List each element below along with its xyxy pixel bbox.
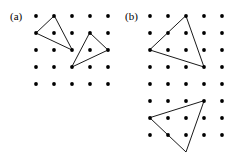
lattice-point bbox=[88, 82, 92, 86]
lattice-point bbox=[106, 31, 110, 35]
lattice-point bbox=[202, 82, 206, 86]
lattice-point bbox=[166, 116, 170, 120]
lattice-point bbox=[148, 133, 152, 137]
lattice-point bbox=[34, 65, 38, 69]
lattice-point bbox=[202, 14, 206, 18]
lattice-point bbox=[52, 65, 56, 69]
lattice-point bbox=[52, 48, 56, 52]
lattice-point bbox=[52, 82, 56, 86]
lattice-point bbox=[220, 48, 224, 52]
lattice-point bbox=[106, 14, 110, 18]
lattice-point bbox=[220, 116, 224, 120]
lattice-point bbox=[184, 116, 188, 120]
triangles-b bbox=[150, 16, 204, 152]
lattice-dots-b bbox=[148, 14, 224, 137]
triangles-a bbox=[36, 16, 108, 67]
lattice-point bbox=[202, 116, 206, 120]
lattice-point bbox=[184, 133, 188, 137]
lattice-point bbox=[166, 14, 170, 18]
triangle-b2 bbox=[150, 101, 204, 152]
figure-root: (a) (b) bbox=[0, 0, 239, 162]
lattice-point bbox=[34, 14, 38, 18]
lattice-point bbox=[166, 82, 170, 86]
lattice-point bbox=[184, 99, 188, 103]
lattice-point bbox=[106, 82, 110, 86]
lattice-point bbox=[148, 65, 152, 69]
lattice-point bbox=[52, 31, 56, 35]
lattice-point bbox=[106, 65, 110, 69]
lattice-point bbox=[70, 14, 74, 18]
lattice-point bbox=[70, 31, 74, 35]
lattice-point bbox=[184, 82, 188, 86]
panel-a: (a) bbox=[0, 0, 119, 162]
lattice-point bbox=[184, 31, 188, 35]
lattice-point bbox=[220, 65, 224, 69]
lattice-point bbox=[166, 48, 170, 52]
lattice-point bbox=[184, 65, 188, 69]
lattice-diagram-a bbox=[0, 0, 119, 162]
lattice-point bbox=[148, 31, 152, 35]
lattice-point bbox=[220, 14, 224, 18]
lattice-point bbox=[220, 31, 224, 35]
lattice-point bbox=[70, 82, 74, 86]
lattice-point bbox=[202, 133, 206, 137]
panel-b: (b) bbox=[119, 0, 239, 162]
lattice-point bbox=[148, 14, 152, 18]
lattice-point bbox=[148, 99, 152, 103]
lattice-point bbox=[220, 133, 224, 137]
lattice-point bbox=[88, 14, 92, 18]
lattice-point bbox=[166, 65, 170, 69]
lattice-point bbox=[166, 99, 170, 103]
lattice-point bbox=[88, 65, 92, 69]
triangle-b1 bbox=[150, 16, 204, 67]
lattice-point bbox=[88, 48, 92, 52]
lattice-point bbox=[202, 31, 206, 35]
lattice-point bbox=[34, 82, 38, 86]
lattice-point bbox=[148, 82, 152, 86]
lattice-diagram-b bbox=[119, 0, 239, 162]
lattice-point bbox=[184, 48, 188, 52]
lattice-point bbox=[220, 82, 224, 86]
lattice-point bbox=[202, 48, 206, 52]
lattice-point bbox=[34, 48, 38, 52]
lattice-point bbox=[220, 99, 224, 103]
